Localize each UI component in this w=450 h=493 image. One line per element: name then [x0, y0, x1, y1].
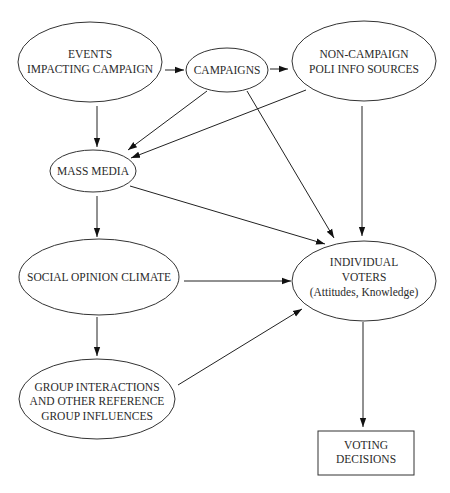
- voters-label-line2: VOTERS: [342, 271, 387, 283]
- edge-massmedia-voters: [130, 186, 325, 244]
- node-events: EVENTS IMPACTING CAMPAIGN: [18, 22, 162, 102]
- node-massmedia: MASS MEDIA: [50, 150, 136, 192]
- edge-campaigns-massmedia: [128, 91, 207, 150]
- group-label-line1: GROUP INTERACTIONS: [34, 381, 159, 393]
- edge-noncampaign-massmedia: [131, 90, 306, 158]
- noncampaign-label-line2: POLI INFO SOURCES: [309, 63, 419, 75]
- decisions-label-line1: VOTING: [344, 439, 388, 451]
- node-decisions: VOTING DECISIONS: [318, 431, 414, 475]
- voters-label-line1: INDIVIDUAL: [330, 256, 398, 268]
- events-label-line1: EVENTS: [68, 48, 112, 60]
- node-campaigns: CAMPAIGNS: [186, 48, 268, 92]
- edge-campaigns-voters: [247, 91, 334, 238]
- decisions-label-line2: DECISIONS: [336, 453, 396, 465]
- noncampaign-ellipse: [292, 21, 436, 101]
- node-noncampaign: NON-CAMPAIGN POLI INFO SOURCES: [292, 21, 436, 101]
- group-label-line2: AND OTHER REFERENCE: [30, 395, 165, 407]
- voters-label-line3: (Attitudes, Knowledge): [310, 286, 419, 299]
- group-label-line3: GROUP INFLUENCES: [41, 410, 153, 422]
- campaigns-label: CAMPAIGNS: [194, 64, 261, 76]
- flow-diagram: EVENTS IMPACTING CAMPAIGN CAMPAIGNS NON-…: [0, 0, 450, 493]
- social-label: SOCIAL OPINION CLIMATE: [27, 271, 171, 283]
- events-label-line2: IMPACTING CAMPAIGN: [27, 63, 154, 75]
- noncampaign-label-line1: NON-CAMPAIGN: [319, 48, 409, 60]
- node-voters: INDIVIDUAL VOTERS (Attitudes, Knowledge): [292, 241, 436, 321]
- node-group: GROUP INTERACTIONS AND OTHER REFERENCE G…: [19, 359, 175, 439]
- massmedia-label: MASS MEDIA: [57, 165, 130, 177]
- node-social: SOCIAL OPINION CLIMATE: [19, 239, 179, 315]
- events-ellipse: [18, 22, 162, 102]
- edge-group-voters: [178, 309, 302, 385]
